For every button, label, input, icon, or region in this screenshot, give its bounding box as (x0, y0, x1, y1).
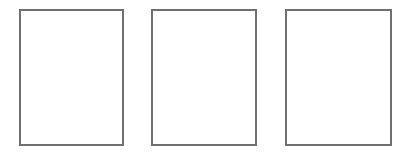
blank-panel-3 (285, 9, 392, 146)
blank-panel-2 (151, 9, 257, 146)
blank-panel-1 (19, 9, 124, 146)
